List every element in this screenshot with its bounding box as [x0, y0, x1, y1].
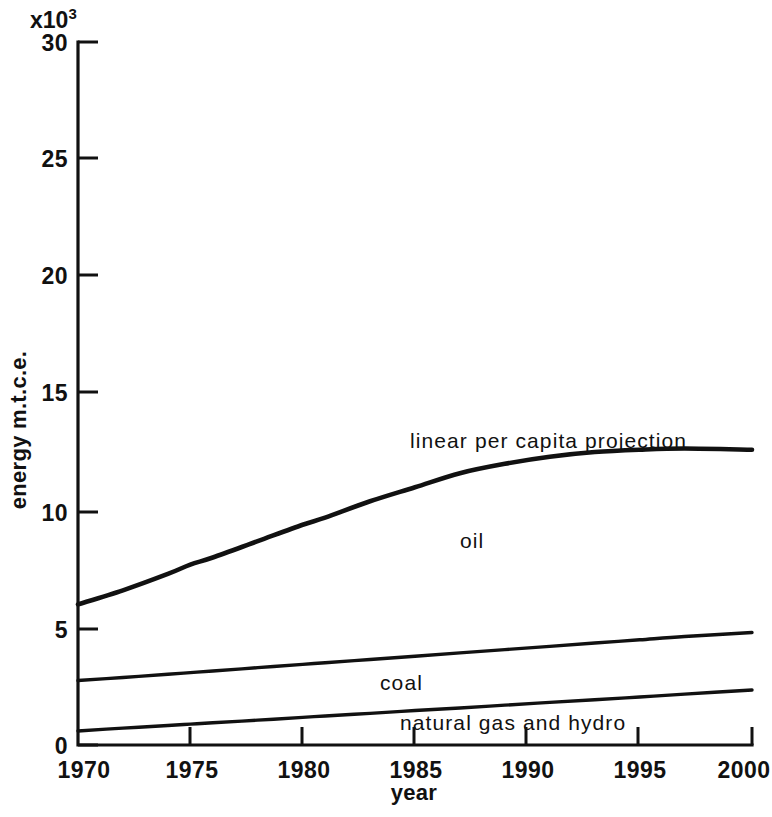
- y-axis-label: energy m.t.c.e.: [6, 351, 31, 510]
- x-axis-label: year: [391, 780, 438, 805]
- x-tick-label: 1970: [57, 757, 110, 783]
- y-tick-label: 20: [41, 263, 68, 289]
- y-tick-label: 10: [41, 500, 68, 526]
- y-tick-label: 5: [55, 617, 68, 643]
- x-tick-label: 1980: [277, 757, 330, 783]
- y-tick-label: 25: [41, 146, 68, 172]
- y-axis-tick-labels: 30 25 20 15 10 5 0: [41, 30, 68, 759]
- annotation-coal: coal: [380, 671, 423, 694]
- chart-figure: x103 energy m.t.c.e. year 30 25 20 15: [0, 0, 772, 817]
- annotation-oil: oil: [460, 529, 484, 552]
- y-axis-multiplier: x103: [30, 5, 77, 33]
- y-tick-label: 30: [41, 30, 68, 56]
- annotation-linear-per-capita-projection: linear per capita projection: [410, 429, 687, 452]
- y-axis-multiplier-exponent: 3: [68, 5, 76, 22]
- x-tick-label: 2000: [717, 757, 770, 783]
- annotation-natural-gas-and-hydro: natural gas and hydro: [400, 711, 626, 734]
- series-line-linear-per-capita-projection: [78, 449, 752, 605]
- x-tick-label: 1995: [613, 757, 666, 783]
- y-axis-ticks: [78, 158, 98, 745]
- y-tick-label: 0: [55, 733, 68, 759]
- x-axis-tick-labels: 1970 1975 1980 1985 1990 1995 2000: [57, 757, 770, 783]
- y-tick-label: 15: [41, 380, 68, 406]
- energy-line-chart: x103 energy m.t.c.e. year 30 25 20 15: [0, 0, 772, 817]
- x-tick-label: 1990: [501, 757, 554, 783]
- series-annotations: linear per capita projection oil coal na…: [380, 429, 687, 734]
- x-tick-label: 1975: [165, 757, 218, 783]
- x-tick-label: 1985: [389, 757, 442, 783]
